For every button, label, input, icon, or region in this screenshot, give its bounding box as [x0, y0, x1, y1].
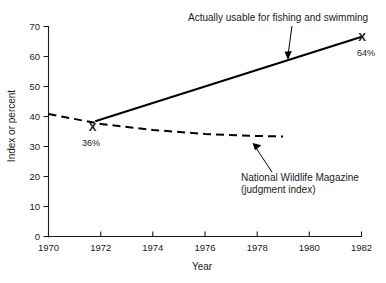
y-tick-label: 30 [29, 141, 40, 152]
y-axis-title: Index or percent [6, 90, 17, 162]
annotation-nwf-line2: (judgment index) [241, 184, 315, 195]
chart-canvas: 70 60 50 40 30 20 10 0 1970 1972 1974 19… [0, 0, 386, 283]
x-tick-label: 1972 [90, 242, 111, 253]
y-tick-label: 70 [29, 21, 40, 32]
chart-figure: 70 60 50 40 30 20 10 0 1970 1972 1974 19… [0, 0, 386, 283]
x-tick-label: 1970 [38, 242, 59, 253]
annotation-usable-text: Actually usable for fishing and swimming [188, 12, 368, 23]
x-tick-label: 1982 [351, 242, 372, 253]
x-tick-label: 1974 [142, 242, 163, 253]
y-tick-label: 50 [29, 81, 40, 92]
data-marker-36: X [89, 121, 97, 133]
y-tick-label: 0 [35, 231, 40, 242]
y-tick-label: 60 [29, 51, 40, 62]
y-tick-label: 10 [29, 201, 40, 212]
data-marker-64: X [358, 31, 366, 43]
x-tick-label: 1980 [299, 242, 320, 253]
data-label-64: 64% [357, 48, 375, 58]
y-tick-label: 40 [29, 111, 40, 122]
annotation-nwf-line1: National Wildlife Magazine [241, 172, 359, 183]
x-tick-label: 1976 [194, 242, 215, 253]
y-tick-label: 20 [29, 171, 40, 182]
x-tick-label: 1978 [247, 242, 268, 253]
data-label-36: 36% [82, 138, 100, 148]
x-axis-title: Year [192, 261, 213, 272]
chart-background [0, 0, 386, 283]
